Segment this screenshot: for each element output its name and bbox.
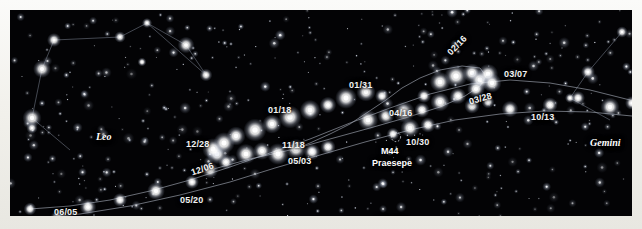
star-core: [569, 97, 571, 99]
star-core: [222, 141, 227, 146]
star-core: [437, 125, 439, 127]
star-core: [231, 43, 232, 44]
star-core: [528, 107, 531, 110]
star-core: [85, 187, 86, 188]
star-core: [197, 92, 198, 93]
star-core: [488, 173, 489, 174]
star-core: [47, 49, 48, 50]
star-core: [538, 61, 540, 63]
star-core: [439, 23, 440, 24]
star-core: [232, 179, 233, 180]
dso-catalog-id-label: M44: [381, 147, 399, 156]
star-core: [78, 178, 79, 179]
star-core: [565, 83, 566, 84]
star-core: [168, 149, 169, 150]
star-core: [118, 198, 121, 201]
star-core: [219, 118, 221, 120]
star-core: [111, 106, 112, 107]
star-core: [146, 197, 147, 198]
star-core: [224, 160, 227, 163]
star-core: [308, 72, 309, 73]
date-label-05-20: 05/20: [180, 196, 204, 205]
star-core: [159, 207, 160, 208]
constellation-line: [32, 69, 70, 150]
star-core: [30, 116, 34, 120]
star-core: [505, 55, 506, 56]
star-core: [450, 193, 451, 194]
star-core: [42, 132, 44, 134]
star-core: [94, 45, 95, 46]
star-core: [510, 20, 511, 21]
star-core: [84, 180, 85, 181]
star-core: [339, 158, 341, 160]
star-core: [585, 171, 586, 172]
star-core: [495, 195, 496, 196]
star-core: [308, 108, 313, 113]
star-core: [283, 94, 284, 95]
star-core: [84, 93, 86, 95]
star-core: [141, 208, 142, 209]
star-core: [377, 134, 379, 136]
star-core: [324, 88, 325, 89]
star-core: [195, 53, 197, 55]
star-core: [527, 119, 529, 121]
star-core: [234, 134, 238, 138]
star-core: [237, 195, 238, 196]
star-core: [22, 76, 23, 77]
star-core: [589, 123, 590, 124]
star-core: [276, 152, 281, 157]
star-core: [119, 36, 122, 39]
star-core: [360, 63, 361, 64]
star-core: [156, 57, 157, 58]
star-core: [29, 134, 32, 137]
star-core: [115, 20, 117, 22]
star-core: [361, 43, 362, 44]
star-core: [502, 40, 504, 42]
star-core: [177, 69, 178, 70]
star-core: [60, 113, 61, 114]
star-core: [538, 10, 540, 12]
star-core: [307, 203, 308, 204]
star-core: [318, 128, 319, 129]
star-core: [380, 94, 383, 97]
star-core: [319, 63, 320, 64]
star-core: [585, 44, 587, 46]
star-core: [82, 166, 83, 167]
star-core: [105, 71, 107, 73]
star-core: [310, 150, 314, 154]
star-core: [29, 208, 32, 211]
star-core: [73, 24, 74, 25]
star-core: [143, 140, 145, 142]
star-core: [546, 186, 548, 188]
star-core: [113, 171, 114, 172]
star-core: [20, 16, 22, 18]
star-core: [316, 168, 317, 169]
star-core: [59, 191, 60, 192]
star-core: [341, 210, 342, 211]
star-core: [441, 15, 442, 16]
star-core: [516, 58, 518, 60]
star-core: [298, 126, 300, 128]
star-core: [413, 45, 414, 46]
star-core: [621, 31, 624, 34]
star-core: [196, 130, 198, 132]
star-core: [589, 120, 590, 121]
star-core: [297, 52, 298, 53]
star-core: [60, 173, 62, 175]
star-core: [413, 66, 414, 67]
star-core: [208, 92, 209, 93]
star-core: [560, 55, 561, 56]
star-core: [264, 85, 266, 87]
star-core: [572, 202, 574, 204]
star-core: [250, 63, 251, 64]
star-core: [70, 72, 71, 73]
star-core: [421, 13, 422, 14]
star-core: [419, 36, 420, 37]
star-core: [72, 87, 73, 88]
star-core: [376, 186, 378, 188]
star-core: [489, 165, 491, 167]
star-core: [54, 181, 55, 182]
star-core: [79, 155, 81, 157]
star-core: [328, 51, 330, 53]
star-core: [179, 135, 180, 136]
